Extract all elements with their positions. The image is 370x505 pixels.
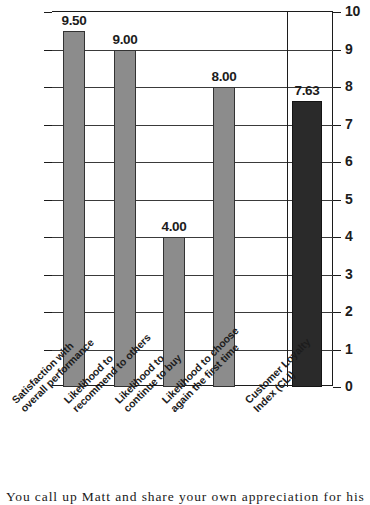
gridline xyxy=(52,312,333,313)
tick-mark-right xyxy=(333,312,341,313)
tick-mark-right xyxy=(333,87,341,88)
bar-value-label: 8.00 xyxy=(200,70,248,84)
y-axis-tick-label-10: 10 xyxy=(345,4,367,18)
y-axis-tick-label-8: 8 xyxy=(345,79,367,93)
plot-area xyxy=(52,11,333,386)
gridline xyxy=(52,162,333,163)
tick-mark-right xyxy=(333,200,341,201)
y-axis-tick-label-0: 0 xyxy=(345,379,367,393)
y-axis-tick-label-4: 4 xyxy=(345,229,367,243)
y-axis-tick-label-1: 1 xyxy=(345,342,367,356)
tick-mark-right xyxy=(333,125,341,126)
gridline xyxy=(52,200,333,201)
gridline xyxy=(52,275,333,276)
gridline xyxy=(52,50,333,51)
tick-mark-left xyxy=(44,50,52,51)
y-axis-tick-label-9: 9 xyxy=(345,42,367,56)
gridline xyxy=(52,237,333,238)
y-axis-tick-label-2: 2 xyxy=(345,304,367,318)
tick-mark-left xyxy=(44,125,52,126)
tick-mark-left xyxy=(44,350,52,351)
y-axis-tick-label-3: 3 xyxy=(345,267,367,281)
tick-mark-left xyxy=(44,87,52,88)
tick-mark-right xyxy=(333,350,341,351)
tick-mark-left xyxy=(44,312,52,313)
bar-value-label: 9.50 xyxy=(50,14,98,28)
tick-mark-right xyxy=(333,237,341,238)
tick-mark-right xyxy=(333,50,341,51)
tick-mark-right xyxy=(333,387,341,388)
y-axis-tick-label-7: 7 xyxy=(345,117,367,131)
tick-mark-right xyxy=(333,12,341,13)
tick-mark-right xyxy=(333,275,341,276)
bar-value-label: 9.00 xyxy=(101,33,149,47)
tick-mark-left xyxy=(44,237,52,238)
tick-mark-left xyxy=(44,200,52,201)
gridline xyxy=(52,125,333,126)
tick-mark-left xyxy=(44,162,52,163)
y-axis-tick-label-6: 6 xyxy=(345,154,367,168)
tick-mark-left xyxy=(44,275,52,276)
bar-value-label: 4.00 xyxy=(150,220,198,234)
cli-section-divider xyxy=(287,12,288,387)
body-caption-text: You call up Matt and share your own appr… xyxy=(6,488,364,505)
tick-mark-right xyxy=(333,162,341,163)
bar-value-label: 7.63 xyxy=(283,84,331,98)
y-axis-tick-label-5: 5 xyxy=(345,192,367,206)
